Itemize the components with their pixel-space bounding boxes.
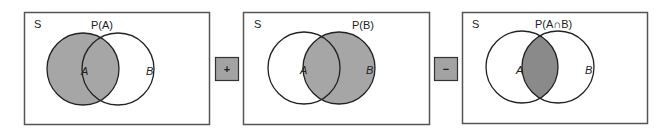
panel-title: P(A) <box>91 19 113 31</box>
set-a-label: A <box>299 64 307 76</box>
universe-label: S <box>34 18 41 30</box>
minus-operator: − <box>435 58 458 81</box>
plus-operator: + <box>216 58 239 81</box>
set-a-label: A <box>80 65 88 77</box>
panel-title: P(A∩B) <box>535 18 572 30</box>
universe-label: S <box>254 18 261 30</box>
panel-p-b: S P(B) A B <box>244 13 430 125</box>
plus-icon: + <box>224 63 230 75</box>
set-b-label: B <box>366 64 373 76</box>
panel-title: P(B) <box>352 19 374 31</box>
set-b-label: B <box>585 64 592 76</box>
set-b-label: B <box>146 65 153 77</box>
universe-label: S <box>472 18 479 30</box>
venn-addition-rule-diagram: S P(A) A B + S P(B) A B − S P(A∩B) A B <box>0 0 672 136</box>
set-a-label: A <box>515 64 523 76</box>
panel-p-a-intersect-b: S P(A∩B) A B <box>463 13 648 124</box>
minus-icon: − <box>443 63 449 75</box>
panel-p-a: S P(A) A B <box>25 13 210 125</box>
set-b-circle-shaded <box>303 32 375 104</box>
